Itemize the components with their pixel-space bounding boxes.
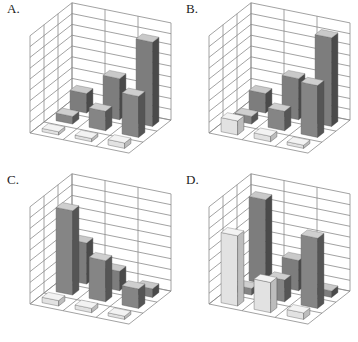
bar-front-1 (42, 292, 65, 306)
bar-front-2 (254, 128, 277, 142)
bar-front-1 (221, 113, 244, 135)
bar-front-3 (287, 305, 310, 320)
bar-front-2 (254, 274, 277, 313)
chart-panel-c: C. (0, 171, 179, 342)
bar-back-1 (249, 192, 272, 285)
chart-b-plot (179, 0, 358, 171)
bar-middle-3 (301, 230, 324, 309)
bar-middle-1 (56, 203, 79, 296)
chart-a-plot (0, 0, 179, 171)
bar-middle-3 (122, 88, 145, 137)
chart-panel-a: A. (0, 0, 179, 171)
chart-panel-b: B. (179, 0, 358, 171)
bar-front-1 (221, 228, 244, 307)
bar-middle-2 (268, 103, 291, 131)
bars (221, 30, 338, 149)
bar-front-3 (108, 135, 131, 149)
bar-middle-3 (122, 281, 145, 309)
bar-middle-2 (89, 103, 112, 131)
chart-c-plot (0, 171, 179, 342)
bar-middle-2 (89, 252, 112, 301)
bars (42, 34, 159, 148)
bar-front-2 (75, 300, 98, 313)
chart-panel-d: D. (179, 171, 358, 342)
bar-middle-3 (301, 77, 324, 137)
chart-d-plot (179, 171, 358, 342)
